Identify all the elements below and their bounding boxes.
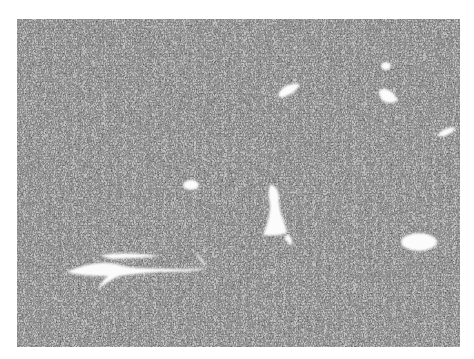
micrograph-image — [17, 19, 460, 347]
vessel-upper-right-2 — [381, 62, 391, 70]
tissue-texture — [17, 19, 460, 347]
vessel-mid-left — [183, 180, 199, 190]
vessel-right-oval — [401, 233, 437, 251]
